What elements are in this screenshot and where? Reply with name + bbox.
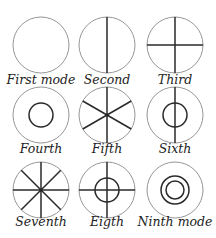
mode-shape: Eigth [79, 162, 135, 229]
mode-label: Second [84, 72, 131, 87]
mode-shape: Third [147, 17, 203, 87]
mode-shape: First mode [6, 17, 76, 87]
mode-shape: Sixth [147, 87, 203, 156]
mode-label: Fifth [91, 141, 122, 156]
mode-shape: Fourth [13, 87, 69, 156]
mode-label: Third [158, 72, 192, 87]
boundary-circle [13, 87, 69, 143]
boundary-circle [147, 162, 203, 218]
mode-label: Eigth [89, 214, 124, 229]
mode-shape: Ninth mode [137, 162, 213, 229]
boundary-circle [13, 17, 69, 73]
mode-shape: Seventh [13, 162, 69, 229]
mode-label: Fourth [19, 141, 63, 156]
mode-shape: Second [79, 17, 135, 87]
center-dot [105, 113, 108, 116]
nodal-circle [166, 181, 184, 199]
mode-shapes-diagram: First modeSecondThirdFourthFifthSixthSev… [0, 0, 216, 238]
nodal-circle [29, 103, 53, 127]
mode-label: Ninth mode [137, 214, 213, 229]
center-dot [39, 188, 42, 191]
mode-shape: Fifth [79, 87, 135, 156]
mode-label: Seventh [15, 214, 67, 229]
mode-label: First mode [6, 72, 76, 87]
nodal-circle [161, 176, 189, 204]
mode-label: Sixth [159, 141, 192, 156]
